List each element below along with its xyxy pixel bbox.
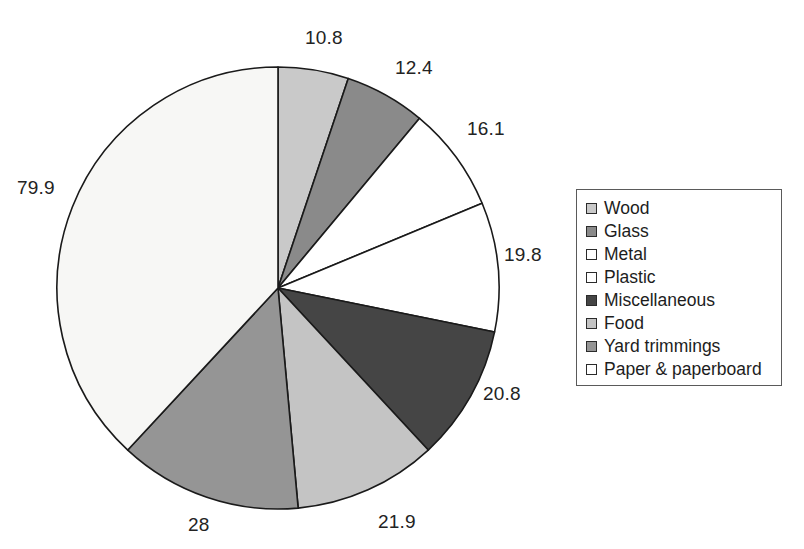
legend-item[interactable]: Miscellaneous	[586, 289, 781, 312]
pie-value-label: 21.9	[378, 511, 416, 533]
legend-swatch-icon	[586, 364, 597, 375]
legend-item[interactable]: Plastic	[586, 266, 781, 289]
legend-item[interactable]: Metal	[586, 243, 781, 266]
legend-item[interactable]: Food	[586, 312, 781, 335]
chart-legend: WoodGlassMetalPlasticMiscellaneousFoodYa…	[576, 189, 782, 386]
legend-item[interactable]: Wood	[586, 197, 781, 220]
pie-value-label: 19.8	[504, 244, 542, 266]
legend-item[interactable]: Paper & paperboard	[586, 358, 781, 381]
legend-item-label: Plastic	[604, 269, 656, 287]
legend-swatch-icon	[586, 249, 597, 260]
legend-item[interactable]: Glass	[586, 220, 781, 243]
legend-swatch-icon	[586, 318, 597, 329]
pie-value-label: 10.8	[305, 27, 343, 49]
legend-item-label: Paper & paperboard	[604, 361, 762, 379]
legend-item-label: Glass	[604, 223, 649, 241]
legend-swatch-icon	[586, 226, 597, 237]
legend-item-label: Yard trimmings	[604, 338, 720, 356]
legend-item-label: Miscellaneous	[604, 292, 715, 310]
legend-swatch-icon	[586, 341, 597, 352]
legend-item-label: Wood	[604, 200, 649, 218]
pie-value-label: 12.4	[395, 57, 433, 79]
legend-swatch-icon	[586, 203, 597, 214]
pie-value-label: 79.9	[17, 177, 55, 199]
pie-slices	[57, 67, 499, 509]
legend-swatch-icon	[586, 295, 597, 306]
legend-item-label: Metal	[604, 246, 647, 264]
pie-value-label: 16.1	[467, 118, 505, 140]
legend-swatch-icon	[586, 272, 597, 283]
pie-value-label: 20.8	[483, 383, 521, 405]
legend-item[interactable]: Yard trimmings	[586, 335, 781, 358]
legend-item-label: Food	[604, 315, 644, 333]
pie-chart: 10.812.416.119.820.821.92879.9 WoodGlass…	[0, 0, 804, 549]
pie-value-label: 28	[188, 514, 210, 536]
